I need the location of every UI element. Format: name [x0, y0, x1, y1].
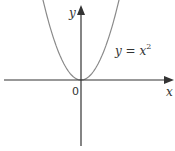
- x-axis-arrow-icon: [164, 76, 174, 84]
- equation-exponent: 2: [146, 42, 151, 51]
- origin-label: 0: [72, 85, 79, 98]
- y-axis-label: y: [68, 6, 76, 20]
- parabola-plot: y x 0 y = x2: [0, 0, 175, 151]
- y-axis-arrow-icon: [77, 5, 85, 15]
- curve-equation-label: y = x2: [114, 42, 151, 58]
- equation-base: y = x: [114, 44, 146, 58]
- x-axis-label: x: [166, 85, 173, 99]
